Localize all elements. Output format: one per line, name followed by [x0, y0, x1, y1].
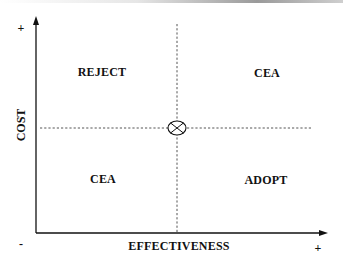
- cost-effectiveness-plane: [0, 0, 343, 265]
- quadrant-bottom-right-label: ADOPT: [245, 173, 288, 188]
- y-axis-label: COST: [14, 109, 29, 142]
- y-axis-arrowhead: [33, 16, 39, 25]
- x-axis-label: EFFECTIVENESS: [128, 239, 229, 254]
- quadrant-top-right-label: CEA: [254, 66, 280, 81]
- circled-x-icon: [168, 121, 186, 135]
- origin-minus-sign: -: [19, 237, 23, 252]
- x-axis-plus-sign: +: [315, 241, 322, 256]
- quadrant-top-left-label: REJECT: [78, 65, 127, 80]
- x-axis-arrowhead: [319, 230, 328, 236]
- quadrant-bottom-left-label: CEA: [90, 172, 116, 187]
- y-axis-plus-sign: +: [18, 21, 25, 36]
